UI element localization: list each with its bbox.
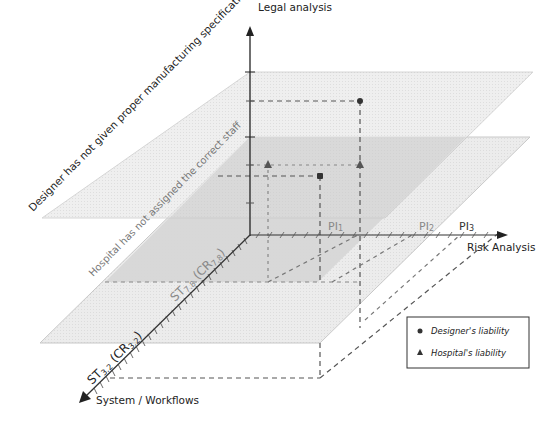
risk-analysis-label: Risk Analysis bbox=[467, 241, 535, 253]
designer-liability-point-lower bbox=[317, 173, 323, 179]
arrow-right-icon bbox=[497, 231, 508, 239]
designer-liability-point-upper bbox=[357, 98, 363, 104]
circle-marker-icon bbox=[418, 329, 423, 334]
legend-designer-label: Designer's liability bbox=[431, 326, 510, 336]
system-workflows-label: System / Workflows bbox=[96, 394, 199, 406]
legend-hospital-label: Hospital's liability bbox=[431, 348, 507, 358]
pi3-label: PI3 bbox=[459, 220, 474, 233]
legal-analysis-label: Legal analysis bbox=[258, 1, 332, 13]
legend: Designer's liability Hospital's liabilit… bbox=[407, 317, 529, 368]
liability-3d-diagram: Legal analysis Risk Analysis PI1 PI2 PI3 bbox=[0, 0, 558, 424]
arrow-up-icon bbox=[246, 26, 254, 36]
